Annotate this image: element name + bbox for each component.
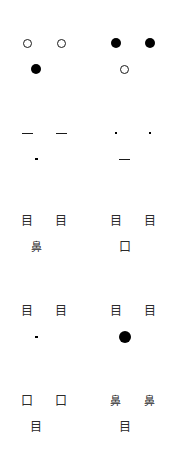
dot-glyph bbox=[149, 132, 152, 135]
kanji-nose-glyph: 鼻 bbox=[144, 396, 155, 407]
kanji-eye-glyph: 目 bbox=[30, 421, 42, 433]
face-panel-left: 目目 bbox=[0, 298, 89, 362]
eye-left: 目 bbox=[10, 208, 44, 234]
hollow-circle-glyph bbox=[23, 39, 32, 48]
eye-right bbox=[133, 30, 167, 56]
kanji-eye-glyph: 目 bbox=[55, 215, 67, 227]
kanji-mouth-glyph: 口 bbox=[21, 395, 33, 407]
eye-left bbox=[10, 30, 44, 56]
kanji-nose-glyph: 鼻 bbox=[110, 396, 121, 407]
face-panel-right: 鼻鼻目 bbox=[89, 388, 178, 452]
dash-glyph bbox=[119, 159, 130, 160]
face-row-2 bbox=[0, 120, 177, 184]
eye-right bbox=[44, 30, 78, 56]
face-mouth bbox=[0, 324, 81, 350]
kanji-nose-glyph: 鼻 bbox=[31, 242, 42, 253]
kanji-eye-glyph: 目 bbox=[144, 305, 156, 317]
filled-circle-glyph bbox=[145, 38, 155, 48]
face-mouth bbox=[81, 56, 170, 82]
kanji-eye-glyph: 目 bbox=[21, 305, 33, 317]
eye-right: 目 bbox=[133, 298, 167, 324]
face-panel-left bbox=[0, 30, 89, 94]
kanji-eye-glyph: 目 bbox=[21, 215, 33, 227]
face-panel-left bbox=[0, 120, 89, 184]
face-row-5: 口口目鼻鼻目 bbox=[0, 388, 177, 452]
eye-left: 目 bbox=[99, 208, 133, 234]
face-mouth: 口 bbox=[81, 234, 170, 260]
eye-right: 口 bbox=[44, 388, 78, 414]
face-mouth bbox=[81, 146, 170, 172]
face-panel-right bbox=[89, 30, 178, 94]
kanji-mouth-glyph: 口 bbox=[119, 241, 131, 253]
face-row-4: 目目目目 bbox=[0, 298, 177, 362]
face-mouth bbox=[81, 324, 170, 350]
face-eyes bbox=[89, 30, 178, 56]
kanji-eye-glyph: 目 bbox=[144, 215, 156, 227]
face-eyes: 目目 bbox=[0, 298, 89, 324]
kanji-eye-glyph: 目 bbox=[55, 305, 67, 317]
kanji-eye-glyph: 目 bbox=[110, 305, 122, 317]
face-panel-left: 目目鼻 bbox=[0, 208, 89, 272]
eye-left bbox=[10, 120, 44, 146]
dash-glyph bbox=[22, 133, 33, 134]
face-eyes bbox=[0, 120, 89, 146]
kanji-eye-glyph: 目 bbox=[119, 421, 131, 433]
face-mouth: 目 bbox=[0, 414, 81, 440]
face-mouth: 目 bbox=[81, 414, 170, 440]
hollow-circle-glyph bbox=[120, 65, 129, 74]
kanji-mouth-glyph: 口 bbox=[55, 395, 67, 407]
eye-left: 目 bbox=[99, 298, 133, 324]
eye-left: 口 bbox=[10, 388, 44, 414]
eye-right: 鼻 bbox=[133, 388, 167, 414]
face-panel-right: 目目 bbox=[89, 298, 178, 362]
hollow-circle-glyph bbox=[57, 39, 66, 48]
eye-right: 目 bbox=[44, 298, 78, 324]
eye-left bbox=[99, 120, 133, 146]
face-eyes bbox=[89, 120, 178, 146]
eye-right: 目 bbox=[44, 208, 78, 234]
face-mouth bbox=[0, 146, 81, 172]
face-row-1 bbox=[0, 30, 177, 94]
face-eyes: 鼻鼻 bbox=[89, 388, 178, 414]
face-mouth bbox=[0, 56, 81, 82]
face-panel-right bbox=[89, 120, 178, 184]
face-eyes: 目目 bbox=[89, 298, 178, 324]
filled-circle-glyph bbox=[111, 38, 121, 48]
face-panel-left: 口口目 bbox=[0, 388, 89, 452]
eye-right: 目 bbox=[133, 208, 167, 234]
face-panel-right: 目目口 bbox=[89, 208, 178, 272]
filled-circle-glyph bbox=[31, 64, 41, 74]
kanji-eye-glyph: 目 bbox=[110, 215, 122, 227]
dot-glyph bbox=[35, 158, 38, 161]
face-mouth: 鼻 bbox=[0, 234, 81, 260]
face-eyes: 口口 bbox=[0, 388, 89, 414]
eye-right bbox=[44, 120, 78, 146]
face-row-3: 目目鼻目目口 bbox=[0, 208, 177, 272]
face-eyes bbox=[0, 30, 89, 56]
face-eyes: 目目 bbox=[89, 208, 178, 234]
eye-left: 鼻 bbox=[99, 388, 133, 414]
face-eyes: 目目 bbox=[0, 208, 89, 234]
dot-glyph bbox=[35, 336, 38, 339]
face-stimulus-grid: 目目鼻目目口目目目目口口目鼻鼻目 bbox=[0, 0, 177, 472]
eye-right bbox=[133, 120, 167, 146]
dash-glyph bbox=[56, 133, 67, 134]
eye-left: 目 bbox=[10, 298, 44, 324]
eye-left bbox=[99, 30, 133, 56]
dot-glyph bbox=[115, 132, 118, 135]
filled-circle-glyph bbox=[119, 331, 131, 343]
